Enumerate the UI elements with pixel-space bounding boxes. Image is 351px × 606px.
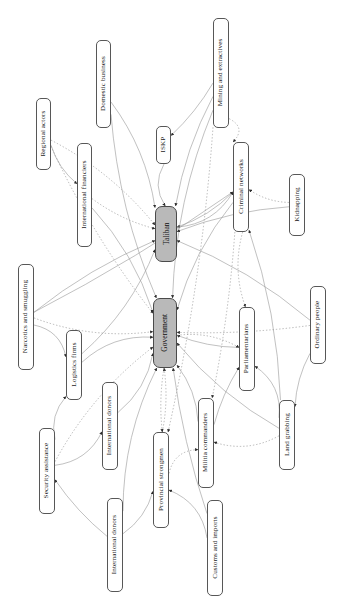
node-label: Customs and imports xyxy=(211,517,218,579)
edge-domestic_business-to-taliban xyxy=(111,102,155,208)
node-ordinary_people[interactable]: Ordinary people xyxy=(310,286,326,364)
node-provincial_strongmen[interactable]: Provincial strongmen xyxy=(153,432,169,528)
edge-customs_imports-to-provincial_strongmen xyxy=(169,490,207,538)
node-label: Narcotics and smuggling xyxy=(22,280,29,353)
node-domestic_business[interactable]: Domestic business xyxy=(96,40,111,128)
edge-government-to-provincial_strongmen xyxy=(161,368,164,432)
node-label: International donors xyxy=(106,396,113,455)
node-narcotics_smuggling[interactable]: Narcotics and smuggling xyxy=(18,264,34,370)
node-label: Parliamentarians xyxy=(243,324,250,373)
edge-kidnapping-to-criminal_networks xyxy=(249,190,289,203)
node-label: Criminal networks xyxy=(237,160,244,215)
node-label: Logistics firms xyxy=(70,343,77,387)
edge-land_grabbing-to-parliamentarians xyxy=(255,366,279,418)
node-international_financiers[interactable]: International financiers xyxy=(77,143,92,247)
edge-ordinary_people-to-land_grabbing xyxy=(295,353,310,406)
node-label: Militia commanders xyxy=(202,413,209,472)
edge-narcotics_smuggling-to-government xyxy=(34,318,153,334)
node-land_grabbing[interactable]: Land grabbing xyxy=(279,400,295,470)
edge-mining_extractives-to-provincial_strongmen xyxy=(168,127,213,432)
node-government[interactable]: Government xyxy=(153,298,177,368)
node-label: Kidnapping xyxy=(293,188,300,223)
edge-iskp-to-taliban xyxy=(158,164,165,206)
node-international_donors_2[interactable]: International donors xyxy=(107,498,123,592)
node-mining_extractives[interactable]: Mining and extractives xyxy=(213,18,229,128)
edge-international_donors_2-to-provincial_strongmen xyxy=(123,491,153,533)
edge-international_donors_1-to-government xyxy=(118,353,153,412)
node-kidnapping[interactable]: Kidnapping xyxy=(289,174,305,236)
edge-mining_extractives-to-government xyxy=(173,110,213,298)
edge-land_grabbing-to-government xyxy=(177,343,279,428)
node-label: Land grabbing xyxy=(283,414,290,457)
node-customs_imports[interactable]: Customs and imports xyxy=(207,500,223,596)
edge-provincial_strongmen-to-government xyxy=(162,368,166,432)
edge-regional_actors-to-taliban xyxy=(51,140,155,225)
node-label: Provincial strongmen xyxy=(157,449,164,512)
edge-international_donors_2-to-security_assistance xyxy=(55,480,107,537)
node-regional_actors[interactable]: Regional actors xyxy=(36,98,51,170)
node-label: Security assistance xyxy=(43,443,50,499)
edge-land_grabbing-to-militia_commanders xyxy=(214,436,279,447)
node-criminal_networks[interactable]: Criminal networks xyxy=(233,142,249,232)
edge-logistics_firms-to-government xyxy=(82,337,153,362)
edge-criminal_networks-to-government xyxy=(177,202,233,310)
edge-domestic_business-to-government xyxy=(111,114,156,298)
node-label: Government xyxy=(161,314,168,352)
node-label: International donors xyxy=(111,515,118,574)
edge-criminal_networks-to-parliamentarians xyxy=(238,232,245,307)
node-taliban[interactable]: Taliban xyxy=(155,206,177,262)
edge-mining_extractives-to-taliban xyxy=(176,96,213,206)
edge-security_assistance-to-logistics_firms xyxy=(54,396,66,439)
node-security_assistance[interactable]: Security assistance xyxy=(39,428,55,514)
edge-militia_commanders-to-parliamentarians xyxy=(214,367,239,424)
node-international_donors_1[interactable]: International donors xyxy=(102,382,118,470)
edge-narcotics_smuggling-to-logistics_firms xyxy=(34,325,66,357)
edge-security_assistance-to-international_donors_1 xyxy=(55,432,102,466)
edge-mining_extractives-to-criminal_networks xyxy=(229,119,239,142)
node-label: Domestic business xyxy=(100,57,107,112)
edge-international_financiers-to-government xyxy=(92,208,153,313)
edge-regional_actors-to-international_financiers xyxy=(51,145,77,184)
node-label: Taliban xyxy=(162,223,169,246)
node-label: ISKP xyxy=(160,137,167,153)
node-militia_commanders[interactable]: Militia commanders xyxy=(198,398,214,488)
edge-international_donors_2-to-government xyxy=(123,368,157,511)
edge-narcotics_smuggling-to-taliban xyxy=(34,241,155,313)
node-label: Regional actors xyxy=(40,111,47,157)
node-label: Mining and extractives xyxy=(217,39,224,107)
node-label: International financiers xyxy=(81,161,88,229)
edge-international_financiers-to-taliban xyxy=(92,199,155,229)
diagram-canvas: Regional actorsDomestic businessMining a… xyxy=(0,0,351,606)
node-label: Ordinary people xyxy=(314,301,321,349)
node-logistics_firms[interactable]: Logistics firms xyxy=(66,330,82,400)
node-parliamentarians[interactable]: Parliamentarians xyxy=(239,307,255,391)
edge-criminal_networks-to-militia_commanders xyxy=(212,232,235,398)
node-iskp[interactable]: ISKP xyxy=(156,126,171,164)
